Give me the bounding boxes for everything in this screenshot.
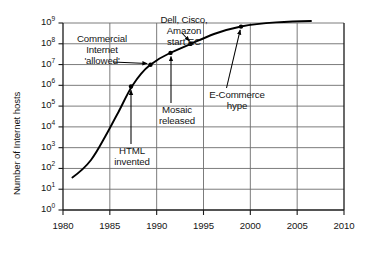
y-tick-exp-7: 7 (51, 56, 55, 63)
marker-html-invented (129, 84, 133, 88)
y-tick-1e6: 106 (22, 79, 55, 89)
y-tick-1e4: 104 (22, 121, 55, 131)
y-tick-1e7: 107 (22, 59, 55, 69)
y-tick-1e3: 103 (22, 142, 55, 152)
x-tick-2010: 2010 (322, 221, 366, 231)
y-tick-exp-0: 0 (51, 202, 55, 209)
y-tick-exp-3: 3 (51, 140, 55, 147)
annotation-dell-cisco-amazon: Dell, Cisco, Amazon start EC (146, 15, 222, 48)
y-tick-1e5: 105 (22, 100, 55, 110)
y-tick-exp-2: 2 (51, 160, 55, 167)
x-tick-1980: 1980 (41, 221, 85, 231)
annotation-html-invented: HTML invented (101, 146, 163, 168)
marker-mosaic-released (168, 51, 172, 55)
annotation-mosaic-released: Mosaic released (145, 105, 209, 127)
y-tick-exp-6: 6 (51, 77, 55, 84)
x-tick-1995: 1995 (182, 221, 226, 231)
x-axis-ticks (63, 210, 344, 215)
y-tick-exp-9: 9 (51, 15, 55, 22)
x-tick-1990: 1990 (135, 221, 179, 231)
annotation-commercial-line3: 'allowed' (60, 56, 144, 67)
y-tick-1e9: 109 (22, 17, 55, 27)
y-tick-exp-5: 5 (51, 98, 55, 105)
y-tick-1e0: 100 (22, 204, 55, 214)
annotation-commercial-internet: Commercial Internet 'allowed' (60, 34, 144, 67)
marker-ecommerce-hype (239, 24, 243, 28)
annotation-dell-line3: start EC (146, 37, 222, 48)
y-tick-1e2: 102 (22, 162, 55, 172)
marker-commercial-internet (148, 63, 152, 67)
y-tick-exp-8: 8 (51, 36, 55, 43)
y-tick-1e8: 108 (22, 38, 55, 48)
annotation-mosaic-line2: released (145, 116, 209, 127)
y-tick-exp-4: 4 (51, 119, 55, 126)
y-axis-title: Number of Internet hosts (12, 92, 22, 195)
annotation-html-line2: invented (101, 157, 163, 168)
x-tick-1985: 1985 (88, 221, 132, 231)
y-tick-1e1: 101 (22, 183, 55, 193)
y-tick-exp-1: 1 (51, 181, 55, 188)
x-tick-2005: 2005 (275, 221, 319, 231)
x-tick-2000: 2000 (228, 221, 272, 231)
internet-hosts-growth-chart: Number of Internet hosts 109 108 107 106… (0, 0, 369, 259)
